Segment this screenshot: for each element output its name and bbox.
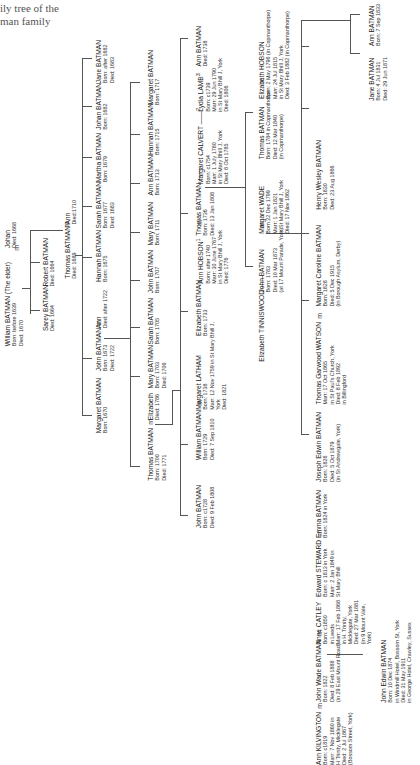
- person-ann-batman-1833[interactable]: Ann BATMAN Born: 7 Sep 1833: [368, 4, 382, 46]
- connector: [30, 230, 63, 231]
- person-john-wade-batman[interactable]: John Wade BATMAN Born: 1822 Died: 8 Feb …: [315, 640, 341, 702]
- connector: [180, 311, 188, 312]
- connector: [301, 233, 309, 234]
- person-emma-batman[interactable]: Emma BATMAN Born: 1824 in York: [315, 490, 329, 538]
- connector: [301, 300, 309, 301]
- person-margaret-caroline-batman[interactable]: Margaret Caroline BATMAN Born: 1828 Died…: [315, 225, 341, 307]
- person-thomas-garwood-watson[interactable]: Thomas Garwood WATSON Marr: 17 Oct 1865 …: [315, 322, 347, 404]
- marriage-symbol: m: [316, 313, 323, 319]
- person-margaret-calvert[interactable]: Margaret CALVERT ——2 Born: c1754 Marr: 1…: [195, 108, 229, 184]
- connector: [130, 327, 140, 328]
- person-johan[interactable]: Johan Died: 1668: [4, 222, 18, 248]
- connector: [82, 58, 92, 59]
- person-john-batman-1707[interactable]: John BATMAN Born: 1707: [147, 250, 161, 293]
- person-elizabeth-batman-1733[interactable]: Elizabeth BATMAN Born: 1733: [195, 280, 209, 336]
- person-ann-kilvington[interactable]: Ann KILVINGTON Born: c1819 Marr: 7 Nov 1…: [315, 712, 353, 765]
- connector: [350, 14, 351, 54]
- marriage-symbol: m: [316, 703, 323, 709]
- connector: [172, 390, 180, 391]
- person-elizabeth-1786[interactable]: Elizabeth Died: 1786: [147, 393, 161, 420]
- person-sarah-batman-1677[interactable]: Sarah BATMAN Born: 1677 Died: 1683: [95, 182, 115, 228]
- connector: [82, 257, 92, 258]
- connector: [180, 515, 188, 516]
- connector: [30, 230, 31, 314]
- person-joseph-edwin-batman[interactable]: Joseph Edwin BATMAN Born: 1826 Died: 5 O…: [315, 412, 341, 482]
- connector: [82, 58, 83, 416]
- connector: [30, 262, 40, 263]
- connector: [350, 53, 360, 54]
- connector: [82, 157, 92, 158]
- connector: [180, 213, 188, 214]
- connector: [130, 232, 140, 233]
- connector: [82, 106, 92, 107]
- connector: [350, 14, 360, 15]
- connector: [245, 266, 253, 267]
- person-john-batman-1673[interactable]: John BATMAN Born: 1673 Died: 1722: [95, 328, 115, 371]
- title-line-1: ily tree of the: [0, 2, 59, 15]
- person-mary-batman-1711[interactable]: Mary BATMAN Born: 1711: [147, 202, 161, 245]
- connector: [130, 280, 140, 281]
- person-margaret-batman-1717[interactable]: Margaret BATMAN Born: 1717: [147, 50, 161, 105]
- person-ann-batman-1713[interactable]: Ann BATMAN Born: 1713: [147, 155, 161, 196]
- person-ann-after-1722[interactable]: Ann Died: after 1722: [95, 290, 109, 328]
- person-robert-batman[interactable]: Robert BATMAN Died: 1664: [42, 238, 56, 287]
- connector: [301, 46, 309, 47]
- connector: [245, 112, 253, 113]
- connector: [130, 82, 140, 83]
- person-jane-batman-1831[interactable]: Jane BATMAN Born: 4 Jul 1831 Died: 29 Ju…: [368, 57, 388, 101]
- person-ann-batman-1738[interactable]: Ann BATMAN Died: 1738: [195, 26, 209, 67]
- connector: [82, 358, 92, 359]
- person-edward-steward[interactable]: Edward STEWARD Born: c 1813 in York Marr…: [315, 540, 341, 597]
- person-sarey-batman[interactable]: Sarey BATMAN Died: 1664: [42, 285, 56, 331]
- connector: [30, 310, 40, 311]
- diagram-title: ily tree of the man family: [0, 2, 59, 28]
- person-thomas-batman-1700[interactable]: Thomas BATMAN Born: 1700 Died: 1771: [147, 428, 167, 481]
- connector: [172, 390, 173, 425]
- person-jane-batman-1682[interactable]: Jane BATMAN Born: after 1682 Died: 1683: [95, 40, 115, 83]
- person-margaret-batman-1670[interactable]: Margaret BATMAN Born: 1670: [95, 378, 109, 433]
- person-hannah-batman-1715[interactable]: Hannah BATMAN Born: 1715: [147, 103, 161, 155]
- person-mary-batman-1703[interactable]: Mary BATMAN Born: 1703 Died: 1706: [147, 345, 167, 388]
- person-ann-1710[interactable]: Ann Died:1710: [64, 200, 78, 225]
- person-john-batman-c1728[interactable]: John BATMAN Born: c1728 Died: 9 Feb 1808: [195, 485, 215, 528]
- person-john-edwin-batman[interactable]: John Edwin BATMAN Born: 10 Dec 1874 in W…: [380, 620, 412, 703]
- person-thomas-batman-1784[interactable]: Thomas BATMAN Born: 1784 in Copmanthorpe…: [258, 90, 284, 159]
- connector: [130, 376, 140, 377]
- connector: [301, 20, 302, 435]
- connector: [180, 38, 188, 39]
- person-william-batman-1729[interactable]: William BATMAN Born: 1729 Died: 7 Sep 18…: [195, 410, 215, 460]
- person-john-batman-1783[interactable]: John BATMAN Born: 1783 Died: 10 Mar 1873…: [258, 228, 284, 292]
- connector: [180, 444, 188, 445]
- person-martha-batman[interactable]: Martha BATMAN Born: 1679: [95, 133, 109, 182]
- person-johan-batman-1682[interactable]: Johan BATMAN Born: 1682: [95, 83, 109, 130]
- connector: [301, 108, 309, 109]
- connector: [82, 415, 92, 416]
- connector: [245, 112, 246, 267]
- person-hannah-batman-1675[interactable]: Hannah BATMAN Born: 1675: [95, 230, 109, 282]
- connector: [130, 134, 140, 135]
- connector: [82, 206, 92, 207]
- person-henry-wesley-batman[interactable]: Henry Wesley BATMAN Born: 1830 Died: 23 …: [315, 140, 335, 210]
- person-ann-hobson[interactable]: Ann HOBSON1 Born: after 1740 Marr: 30 Ju…: [195, 230, 229, 284]
- person-margaret-wade[interactable]: Margaret WADE Born 22 Dec 1799 Marr: 1 J…: [258, 180, 290, 234]
- person-william-batman-elder[interactable]: William BATMAN (The elder) Born: before …: [4, 262, 24, 346]
- connector: [301, 20, 351, 21]
- connector: [130, 183, 140, 184]
- person-anne-catley[interactable]: Anne CATLEY Born: c1850 in Leeds Marr: 1…: [315, 600, 372, 644]
- person-sarah-batman-1705[interactable]: Sarah BATMAN Born: 1705: [147, 298, 161, 344]
- connector: [130, 466, 140, 467]
- person-thomas-batman-1689[interactable]: Thomas BATMAN Died: 1689: [64, 226, 78, 279]
- connector: [130, 82, 131, 467]
- connector: [301, 434, 309, 435]
- title-line-2: man family: [0, 15, 59, 28]
- person-elizabeth-hobson[interactable]: Elizabeth HOBSON Born: 2 May 1796 (in Co…: [258, 10, 290, 99]
- connector: [155, 424, 173, 425]
